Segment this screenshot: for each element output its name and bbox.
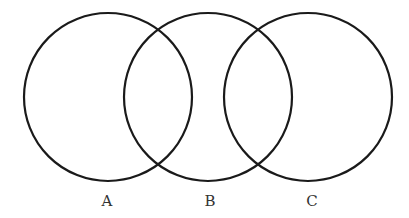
venn-diagram: A B C	[0, 0, 409, 218]
label-a: A	[101, 192, 113, 210]
circle-a	[24, 13, 192, 181]
circle-b	[124, 13, 292, 181]
label-b: B	[204, 192, 215, 210]
label-c: C	[306, 192, 317, 210]
circle-c	[224, 13, 392, 181]
